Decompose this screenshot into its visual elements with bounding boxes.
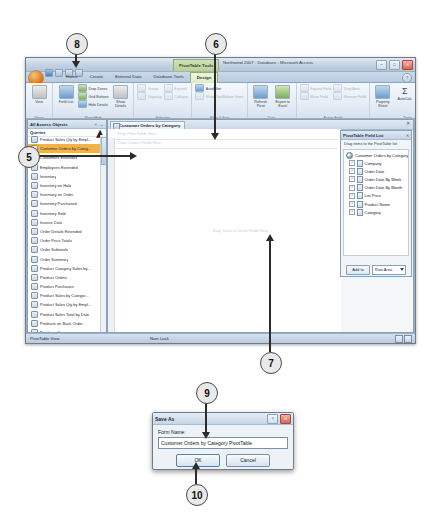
- list-item[interactable]: Products Query: [28, 328, 101, 332]
- expand-icon[interactable]: +: [349, 176, 355, 182]
- list-item[interactable]: Product Category Sales by...: [28, 264, 101, 273]
- list-item[interactable]: Order Summary: [28, 254, 101, 263]
- list-item[interactable]: Order Price Totals: [28, 236, 101, 245]
- field-item-list-price[interactable]: +List Price: [344, 192, 408, 200]
- navigation-item-list[interactable]: Product Sales Qty by Empl... Customer Or…: [28, 135, 101, 332]
- expand-field-button[interactable]: Expand Field: [300, 85, 331, 92]
- pivottable-canvas[interactable]: Drop Filter Fields Here Drop Column Fiel…: [108, 129, 341, 332]
- expand-icon[interactable]: +: [349, 201, 355, 207]
- expand-button[interactable]: Expand: [164, 85, 188, 92]
- navigation-pane-scrollbar[interactable]: [100, 135, 106, 332]
- list-item[interactable]: Inventory on Hold: [28, 181, 101, 190]
- expand-icon: [164, 84, 173, 92]
- callout-9-leader: [205, 402, 207, 434]
- list-item[interactable]: Product Sales Qty by Empl...: [28, 135, 101, 144]
- collapse-button[interactable]: Collapse: [164, 93, 188, 100]
- drop-totals-detail-zone[interactable]: Drop Totals or Detail Fields Here: [213, 229, 268, 233]
- expand-icon[interactable]: +: [349, 160, 355, 166]
- grid-buttons-toggle[interactable]: Grid Buttons: [78, 93, 108, 100]
- expand-icon[interactable]: +: [349, 185, 355, 191]
- list-item[interactable]: Employees Extended: [28, 163, 101, 172]
- add-to-button[interactable]: Add to: [346, 265, 370, 275]
- list-item[interactable]: Product Sales by Categor...: [28, 291, 101, 300]
- refresh-pivot-button[interactable]: Refresh Pivot: [251, 85, 271, 108]
- field-item-company[interactable]: +Company: [344, 159, 408, 167]
- tab-database-tools[interactable]: Database Tools: [148, 72, 190, 83]
- view-button[interactable]: View: [29, 85, 49, 104]
- callout-5-arrow: [130, 152, 137, 160]
- autofilter-icon: [195, 84, 204, 92]
- pivottable-view-icon[interactable]: [404, 335, 412, 343]
- save-as-dialog: Save As ? ✕ Form Name: Customer Orders b…: [152, 412, 294, 470]
- remove-field-button[interactable]: Remove Field: [333, 93, 366, 100]
- drop-zones-toggle[interactable]: Drop Zones: [78, 85, 108, 92]
- list-item[interactable]: Inventory on Order: [28, 190, 101, 199]
- list-item[interactable]: Product Purchases: [28, 282, 101, 291]
- field-item-order-date-by-week[interactable]: +Order Date By Week: [344, 175, 408, 183]
- dialog-close-icon[interactable]: ✕: [280, 414, 291, 424]
- drop-area-button[interactable]: Drop Area: [333, 85, 366, 92]
- field-list-button[interactable]: Field List: [56, 85, 76, 104]
- drop-column-fields-zone[interactable]: Drop Column Fields Here: [118, 141, 161, 145]
- callout-9: 9: [196, 382, 218, 404]
- callout-6-arrow: [211, 133, 219, 140]
- tab-home[interactable]: Home: [60, 72, 84, 83]
- tab-create[interactable]: Create: [84, 72, 109, 83]
- minimize-button[interactable]: ─: [376, 60, 387, 70]
- hide-details-button[interactable]: Hide Details: [78, 101, 108, 108]
- show-details-button[interactable]: Show Details: [110, 85, 130, 108]
- expand-icon[interactable]: +: [349, 168, 355, 174]
- datasheet-view-icon[interactable]: [395, 335, 403, 343]
- list-item[interactable]: Inventory Sold: [28, 209, 101, 218]
- list-item[interactable]: Order Subtotals: [28, 245, 101, 254]
- expand-icon[interactable]: +: [349, 209, 355, 215]
- save-icon[interactable]: [45, 69, 53, 77]
- list-item[interactable]: Products on Back Order: [28, 319, 101, 328]
- query-icon: [31, 210, 38, 217]
- drop-filter-fields-zone[interactable]: Drop Filter Fields Here: [118, 132, 156, 136]
- expand-icon[interactable]: +: [349, 193, 355, 199]
- drop-area-select[interactable]: Row Area: [372, 265, 406, 275]
- group-button[interactable]: Group: [137, 85, 161, 92]
- navigation-pane-header[interactable]: All Access Objects « ⌄: [28, 120, 106, 129]
- field-item-product-name[interactable]: +Product Name: [344, 200, 408, 208]
- selection-commands: Group Ungroup: [137, 85, 161, 100]
- autocalc-button[interactable]: Σ AutoCalc: [395, 85, 415, 101]
- close-icon[interactable]: ✕: [406, 121, 410, 126]
- move-field-button[interactable]: Move Field: [300, 93, 331, 100]
- dialog-help-icon[interactable]: ?: [267, 414, 278, 424]
- ribbon: View Views Field List Drop Zones: [26, 83, 415, 120]
- list-item[interactable]: Invoice Data: [28, 218, 101, 227]
- list-item[interactable]: Product Orders: [28, 273, 101, 282]
- query-icon: [31, 274, 38, 281]
- export-to-excel-button[interactable]: Export to Excel: [273, 85, 293, 108]
- field-item-order-date[interactable]: +Order Date: [344, 167, 408, 175]
- close-icon[interactable]: ✕: [406, 133, 409, 138]
- query-icon: [31, 191, 38, 198]
- list-item[interactable]: Inventory: [28, 172, 101, 181]
- access-application-window: PivotTable Tools Northwind 2007 : Databa…: [25, 57, 416, 344]
- list-item[interactable]: Inventory Purchased: [28, 199, 101, 208]
- query-icon: [31, 237, 38, 244]
- ungroup-button[interactable]: Ungroup: [137, 93, 161, 100]
- chevron-down-icon[interactable]: [400, 268, 404, 271]
- dialog-title-bar: Save As ? ✕: [153, 413, 293, 425]
- show-top-bottom-button[interactable]: Show Top/Bottom Items: [195, 93, 243, 100]
- field-list-tree[interactable]: Customer Orders by Category +Company +Or…: [343, 149, 409, 256]
- document-area: Customer Orders by Category ✕ Drop Filte…: [107, 119, 414, 333]
- ribbon-tab-strip: Home Create External Data Database Tools…: [26, 72, 415, 83]
- tab-external-data[interactable]: External Data: [109, 72, 148, 83]
- autofilter-button[interactable]: AutoFilter: [195, 85, 243, 92]
- list-item[interactable]: Order Details Extended: [28, 227, 101, 236]
- maximize-button[interactable]: □: [389, 60, 400, 70]
- close-button[interactable]: ✕: [402, 60, 413, 70]
- form-name-input[interactable]: Customer Orders by Category PivotTable: [158, 437, 288, 449]
- field-item-category[interactable]: +Category: [344, 208, 408, 216]
- property-sheet-button[interactable]: Property Sheet: [373, 85, 393, 108]
- list-item[interactable]: Product Sales Qty by Empl...: [28, 300, 101, 309]
- field-item-order-date-by-month[interactable]: +Order Date By Month: [344, 184, 408, 192]
- cancel-button[interactable]: Cancel: [226, 454, 270, 467]
- field-list-root-node[interactable]: Customer Orders by Category: [344, 151, 408, 159]
- list-item[interactable]: Product Sales Total by Date: [28, 310, 101, 319]
- help-icon[interactable]: ?: [402, 73, 412, 83]
